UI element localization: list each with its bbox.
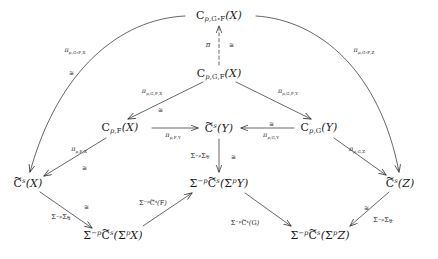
commutative-diagram: Cp,G∘F(X) Cp,G,F(X) Cp,F(X) ~Cs(Y) Cp,G(… <box>0 0 438 259</box>
node-c-p-gof-x: Cp,G∘F(X) <box>196 10 242 23</box>
edge-label-pi-p-g-y: πp,G,Y <box>263 132 279 139</box>
edge-label-pi-p-gof-x: πp,G∘F,X <box>64 47 85 54</box>
edge-label-pi-p-g-f-x: πp,G,F,X <box>142 88 162 95</box>
node-sigma-cs-sigma-x: Σ−p~Cs(ΣpX) <box>83 230 142 241</box>
iso-mark-pgy: ≅ <box>269 121 274 127</box>
edge-label-sigma-sigma-z: Σ−pΣpZ <box>373 217 392 224</box>
iso-mark-pfx: ≅ <box>82 165 87 171</box>
node-sigma-cs-sigma-y: Σ−p~Cs(ΣpY) <box>190 178 249 189</box>
node-cs-y: ~Cs(Y) <box>205 123 233 134</box>
iso-mark-sigx: ≅ <box>84 204 89 210</box>
iso-mark-sigz: ≅ <box>364 205 369 211</box>
edge-label-sigma-sigma-x: Σ−pΣpX <box>51 214 70 221</box>
iso-mark-outer-left: ≅ <box>69 70 74 76</box>
edge-label-sigma-sigma-y: Σ−pΣpY <box>190 153 209 160</box>
edge-pgz <box>334 138 386 175</box>
edge-label-pi-p-f-y: πp,F,Y <box>165 132 180 139</box>
node-c-p-g-y: Cp,G(Y) <box>301 122 338 135</box>
node-cs-x: ~Cs(X) <box>14 178 43 189</box>
edge-pgfy <box>236 82 311 119</box>
node-sigma-cs-sigma-z: Σ−p~Cs(ΣpZ) <box>290 230 349 241</box>
iso-mark-pi: ≅ <box>229 42 234 48</box>
edge-label-sigma-cs-g: Σ−p~Cs(G) <box>231 220 260 227</box>
edge-sigx <box>40 192 92 228</box>
edge-label-pi-p-f-x: πp,F,X <box>71 146 87 153</box>
iso-mark-sigy: ≅ <box>231 154 236 160</box>
edge-pgfx <box>128 82 203 119</box>
edge-label-pi-p-g-z: πp,G,Z <box>349 146 365 153</box>
edge-label-sigma-cs-f: Σ−p~Cs(F) <box>139 200 167 207</box>
node-cs-z: ~Cs(Z) <box>386 178 415 189</box>
iso-mark-pgfx: ≅ <box>158 107 163 113</box>
node-c-p-f-x: Cp,F(X) <box>102 122 139 135</box>
edge-label-pi-p-gof-z: πp,G∘F,Z <box>354 47 375 54</box>
node-c-p-g-f-x: Cp,G,F(X) <box>197 68 242 81</box>
edge-label-pi-p-g-f-y: πp,G,F,Y <box>278 88 298 95</box>
edge-pfx <box>44 138 106 176</box>
edge-label-pi: π <box>206 42 211 49</box>
